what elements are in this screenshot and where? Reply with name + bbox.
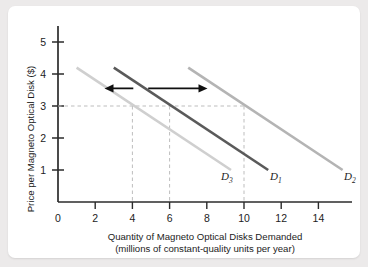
y-tick-label-4: 4 (40, 68, 46, 80)
demand-curve-d1 (114, 68, 268, 170)
x-tick-label-0: 0 (55, 212, 61, 224)
y-tick-label-1: 1 (40, 164, 46, 176)
x-tick-label-2: 2 (92, 212, 98, 224)
x-axis-title-line1: Quantity of Magneto Optical Disks Demand… (108, 231, 303, 242)
curve-label-d1-subscript: 1 (278, 176, 282, 185)
curve-label-d1: D 1 (269, 170, 282, 185)
y-axis-tick-labels: 1 2 3 4 5 (40, 36, 46, 176)
x-tick-label-4: 4 (129, 212, 135, 224)
figure-card: Price per Magneto Optical Disk ($) 1 2 3… (8, 6, 360, 258)
curve-label-d2-subscript: 2 (352, 176, 356, 185)
y-axis-title: Price per Magneto Optical Disk ($) (25, 66, 36, 213)
curve-label-d2: D 2 (343, 170, 356, 185)
y-tick-label-3: 3 (40, 100, 46, 112)
y-tick-label-2: 2 (40, 132, 46, 144)
demand-curve-chart: Price per Magneto Optical Disk ($) 1 2 3… (8, 6, 360, 258)
curve-label-d1-letter: D (269, 170, 278, 182)
x-tick-label-6: 6 (167, 212, 173, 224)
rightward-shift-arrow (148, 84, 207, 92)
curve-label-d3-letter: D (220, 170, 229, 182)
demand-curve-d2 (188, 68, 342, 170)
x-axis-tick-labels: 0 2 4 6 8 10 12 14 (55, 212, 324, 224)
x-tick-label-14: 14 (313, 212, 325, 224)
x-tick-label-10: 10 (238, 212, 250, 224)
leftward-shift-arrow (105, 84, 134, 92)
x-tick-label-8: 8 (204, 212, 210, 224)
x-axis-ticks (95, 202, 318, 209)
curve-label-d2-letter: D (343, 170, 352, 182)
x-axis-title-line2: (millions of constant-quality units per … (115, 243, 295, 254)
demand-curve-d3 (77, 68, 231, 170)
x-tick-label-12: 12 (275, 212, 287, 224)
curve-label-d3-subscript: 3 (228, 176, 233, 185)
y-tick-label-5: 5 (40, 36, 46, 48)
curve-label-d3: D 3 (220, 170, 233, 185)
reference-lines (58, 106, 244, 202)
